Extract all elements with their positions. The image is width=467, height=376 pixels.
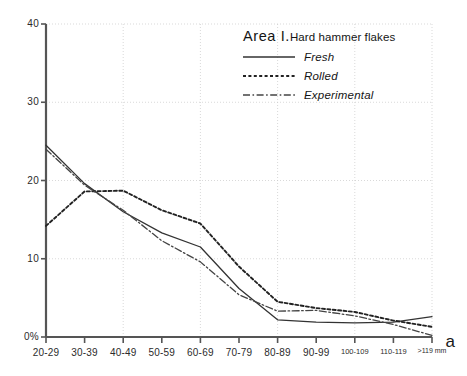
legend-entries: FreshRolledExperimental bbox=[243, 47, 433, 104]
legend-line-swatch bbox=[243, 52, 295, 62]
legend-entry: Experimental bbox=[243, 85, 433, 104]
legend-area-label: Area I. bbox=[243, 28, 290, 44]
legend-entry-label: Fresh bbox=[304, 51, 334, 63]
chart-figure: 403020100% 20-2930-3940-4950-5960-6970-7… bbox=[0, 0, 467, 376]
legend-line-swatch bbox=[243, 71, 295, 81]
legend-entry: Fresh bbox=[243, 47, 433, 66]
legend-entry-label: Rolled bbox=[304, 70, 338, 82]
y-tick-label: 0% bbox=[4, 331, 39, 342]
legend-subject-label: Hard hammer flakes bbox=[290, 31, 395, 43]
legend-entry-label: Experimental bbox=[304, 89, 374, 101]
legend-title: Area I. Hard hammer flakes bbox=[243, 28, 433, 44]
y-tick-label: 30 bbox=[4, 96, 39, 107]
data-series bbox=[46, 145, 432, 335]
y-tick-label: 40 bbox=[4, 18, 39, 29]
figure-letter: a bbox=[446, 332, 455, 352]
chart-legend: Area I. Hard hammer flakes FreshRolledEx… bbox=[243, 28, 433, 104]
legend-entry: Rolled bbox=[243, 66, 433, 85]
legend-line-swatch bbox=[243, 90, 295, 100]
y-tick-label: 10 bbox=[4, 253, 39, 264]
y-tick-label: 20 bbox=[4, 175, 39, 186]
